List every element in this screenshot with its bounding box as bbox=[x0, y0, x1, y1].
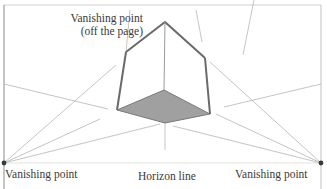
cube-back-edge bbox=[164, 22, 165, 90]
vanishing-point-right-dot bbox=[319, 161, 324, 166]
label-horizon-line: Horizon line bbox=[138, 170, 196, 183]
vanishing-point-left-dot bbox=[2, 161, 7, 166]
label-vanishing-point-left: Vanishing point bbox=[5, 168, 78, 181]
label-vanishing-point-top-line1: Vanishing point bbox=[50, 12, 143, 25]
label-vanishing-point-right: Vanishing point bbox=[235, 168, 308, 181]
label-vanishing-point-top: Vanishing point (off the page) bbox=[50, 12, 143, 38]
cube-base bbox=[117, 90, 210, 123]
label-vanishing-point-top-line2: (off the page) bbox=[50, 25, 143, 38]
